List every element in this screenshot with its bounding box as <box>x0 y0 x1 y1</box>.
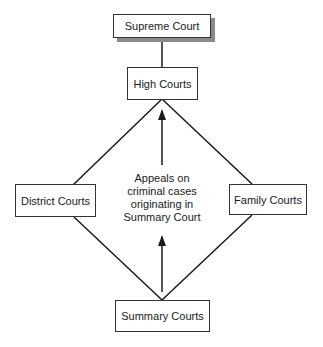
annotation-line-4: Summary Court <box>107 211 217 224</box>
supreme-court-node: Supreme Court <box>113 14 211 38</box>
summary-courts-label: Summary Courts <box>121 310 204 322</box>
high-courts-label: High Courts <box>133 78 191 90</box>
family-summary-line <box>162 215 252 300</box>
district-courts-label: District Courts <box>21 195 90 207</box>
arrowhead-lower-icon <box>158 235 166 246</box>
arrowhead-upper-icon <box>158 109 166 120</box>
supreme-court-label: Supreme Court <box>125 20 200 32</box>
family-courts-label: Family Courts <box>234 194 302 206</box>
appeal-annotation: Appeals on criminal cases originating in… <box>107 172 217 224</box>
high-courts-node: High Courts <box>127 67 198 100</box>
summary-courts-node: Summary Courts <box>115 300 210 332</box>
annotation-line-2: criminal cases <box>107 185 217 198</box>
district-courts-node: District Courts <box>15 184 96 217</box>
annotation-line-1: Appeals on <box>107 172 217 185</box>
family-courts-node: Family Courts <box>229 184 307 215</box>
district-summary-line <box>74 217 162 300</box>
annotation-line-3: originating in <box>107 198 217 211</box>
